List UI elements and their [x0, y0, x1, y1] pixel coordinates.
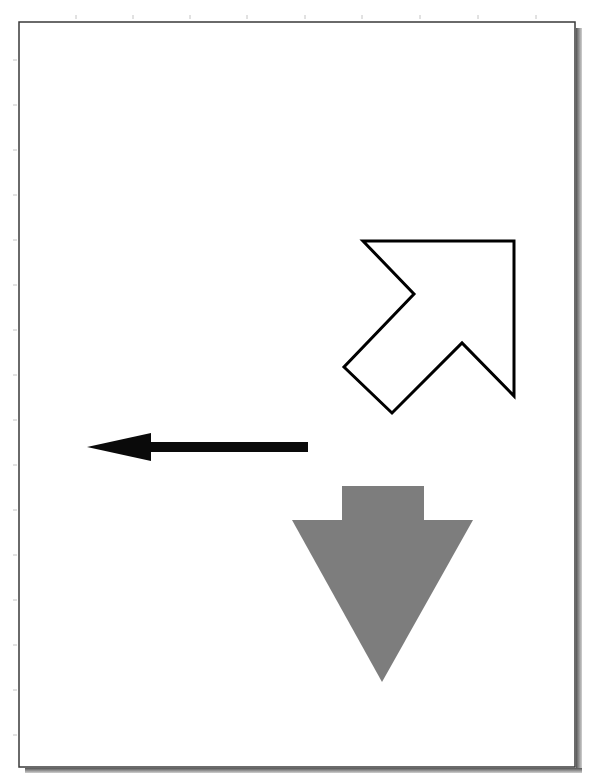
down-arrow-stem: [342, 486, 424, 521]
left-ruler-ticks: [13, 60, 17, 735]
left-arrow-shaft: [149, 442, 308, 452]
page-shadow-bottom: [25, 768, 582, 773]
page-shadow-right: [576, 28, 582, 773]
top-ruler-ticks: [76, 15, 536, 19]
document-page: [0, 0, 596, 782]
page-border: [19, 22, 575, 767]
